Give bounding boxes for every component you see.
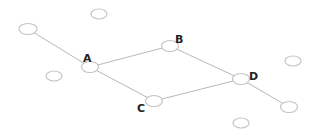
edge-a-c xyxy=(90,67,154,101)
edge-a-b xyxy=(90,46,170,67)
node-c[interactable] xyxy=(146,96,163,107)
nodes xyxy=(19,9,301,128)
node-n5[interactable] xyxy=(281,102,298,113)
node-n1[interactable] xyxy=(19,24,37,35)
label-b: B xyxy=(175,33,183,46)
graph-diagram: A B C D xyxy=(0,0,316,136)
node-n2[interactable] xyxy=(91,9,107,19)
node-d[interactable] xyxy=(233,74,250,85)
edge-n1-a xyxy=(28,29,90,67)
label-d: D xyxy=(249,70,258,83)
label-c: C xyxy=(137,102,145,115)
edges xyxy=(28,29,289,107)
node-n3[interactable] xyxy=(46,71,62,81)
edge-d-n5 xyxy=(241,79,289,107)
node-n4[interactable] xyxy=(285,56,301,66)
edge-b-d xyxy=(170,46,241,79)
label-a: A xyxy=(83,52,92,65)
edge-c-d xyxy=(154,79,241,101)
node-n6[interactable] xyxy=(233,118,249,128)
